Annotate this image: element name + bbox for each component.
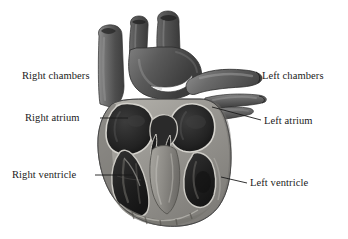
label-left-chambers: Left chambers [262,70,324,82]
heart-diagram-figure: Right chambers Right atrium Right ventri… [0,0,348,239]
label-right-atrium: Right atrium [25,112,80,124]
label-left-atrium: Left atrium [264,115,313,127]
left-ventricle-chamber [184,152,216,207]
superior-vena-cava [98,25,124,108]
label-right-chambers: Right chambers [22,70,90,82]
right-atrium-chamber [106,104,153,155]
label-left-ventricle: Left ventricle [250,177,308,189]
label-right-ventricle: Right ventricle [12,169,76,181]
